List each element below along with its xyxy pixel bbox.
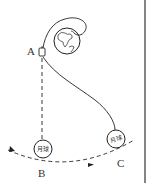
transfer-trajectory [43, 18, 115, 130]
lunar-transfer-diagram: A 月球 B 月球 C [0, 0, 146, 190]
moon-c: 月球 [107, 130, 125, 148]
label-a: A [27, 45, 35, 57]
spacecraft-icon [39, 46, 45, 56]
moon-b: 月球 [34, 140, 52, 158]
earth-icon [54, 28, 80, 54]
orbit-arrow-icon [9, 146, 15, 152]
label-c: C [117, 157, 124, 169]
orbit-arrow-icon [88, 163, 94, 167]
moon-b-label: 月球 [37, 145, 49, 153]
label-b: B [38, 167, 45, 179]
